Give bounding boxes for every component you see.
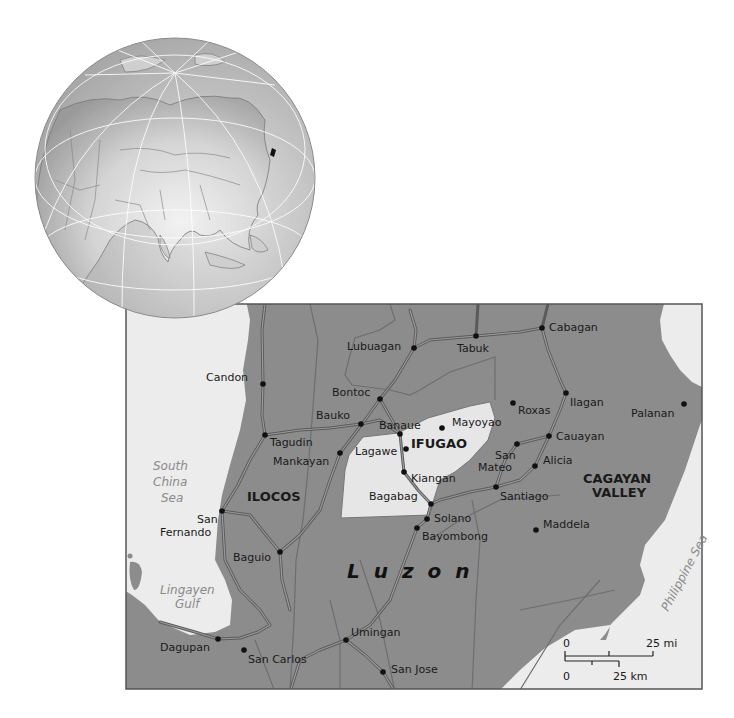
city-dot-san [219,508,225,514]
city-label-fernando: Fernando [160,526,211,539]
city-label-solano: Solano [434,512,471,525]
city-label-cauayan: Cauayan [556,430,604,443]
water-label-south-china-sea-3: Sea [161,491,183,505]
city-label-ilagan: Ilagan [570,396,604,409]
city-dot-bontoc [377,396,383,402]
water-label-south-china-sea-1: South [153,459,188,473]
city-dot-tagudin [262,432,268,438]
city-label-tagudin: Tagudin [269,436,313,449]
region-label-cagayan-valley-1: CAGAYAN [583,471,651,486]
city-dot-mankayan [337,450,343,456]
region-label-cagayan-valley-2: VALLEY [592,485,647,500]
islet [128,554,133,559]
city-label-santiago: Santiago [500,490,549,503]
city-label-maddela: Maddela [543,518,590,531]
city-dot-cauayan [546,433,552,439]
city-dot-mayoyao [439,425,445,431]
city-label-umingan: Umingan [351,626,401,639]
city-dot-lagawe [403,446,409,452]
city-dot-ilagan [563,390,569,396]
city-dot-lubuagan [411,345,417,351]
city-label-roxas: Roxas [518,404,551,417]
city-dot-bauko [358,421,364,427]
city-dot-alicia [532,463,538,469]
city-label-mankayan: Mankayan [273,455,329,468]
city-label-tabuk: Tabuk [456,342,490,355]
city-label-mayoyao: Mayoyao [452,416,502,429]
city-label-banaue: Banaue [379,419,421,432]
scale-miles-label: 25 mi [646,637,677,650]
city-dot-maddela [533,527,539,533]
city-dot-umingan [343,637,349,643]
city-label-bayombong: Bayombong [422,530,488,543]
city-label-cabagan: Cabagan [549,321,598,334]
city-label-alicia: Alicia [543,454,572,467]
water-label-lingayen-gulf-2: Gulf [175,597,201,611]
water-label-lingayen-gulf-1: Lingayen [160,583,215,597]
city-label-dagupan: Dagupan [160,641,210,654]
city-dot-san [514,441,520,447]
city-dot-roxas [510,400,516,406]
city-dot-bayombong [414,525,420,531]
city-label-bauko: Bauko [316,409,350,422]
city-dot-santiago [493,484,499,490]
city-dot-candon [260,381,266,387]
scale-miles-zero: 0 [563,637,570,650]
city-dot-dagupan [215,636,221,642]
locator-globe [35,38,315,318]
city-label-lubuagan: Lubuagan [347,340,401,353]
city-dot-kiangan [401,469,407,475]
city-label-baguio: Baguio [233,551,271,564]
city-dot-san-jose [380,669,386,675]
regional-map: LubuaganTabukCabaganCandonBontocBaukoTag… [124,300,710,692]
region-label-ifugao: IFUGAO [411,436,467,451]
city-dot-solano [424,516,430,522]
map-figure: LubuaganTabukCabaganCandonBontocBaukoTag… [0,0,734,718]
city-label-palanan: Palanan [631,407,674,420]
city-label-san-jose: San Jose [391,663,438,676]
city-dot-bagabag [428,501,434,507]
city-label-mateo: Mateo [478,461,512,474]
city-label-candon: Candon [206,371,248,384]
city-label-kiangan: Kiangan [411,472,456,485]
city-dot-san-carlos [241,647,247,653]
city-label-lagawe: Lagawe [355,445,398,458]
city-dot-baguio [277,549,283,555]
city-label-bontoc: Bontoc [332,386,370,399]
scale-km-zero: 0 [563,670,570,683]
city-label-san: San [197,513,218,526]
city-dot-banaue [397,431,403,437]
region-label-ilocos: ILOCOS [247,489,301,504]
water-label-south-china-sea-2: China [153,475,187,489]
island-label-luzon: Luzon [347,559,484,583]
city-label-san-carlos: San Carlos [248,653,307,666]
city-label-bagabag: Bagabag [369,490,418,503]
city-dot-palanan [681,401,687,407]
scale-km-label: 25 km [613,670,648,683]
city-dot-tabuk [473,333,479,339]
city-dot-cabagan [539,325,545,331]
